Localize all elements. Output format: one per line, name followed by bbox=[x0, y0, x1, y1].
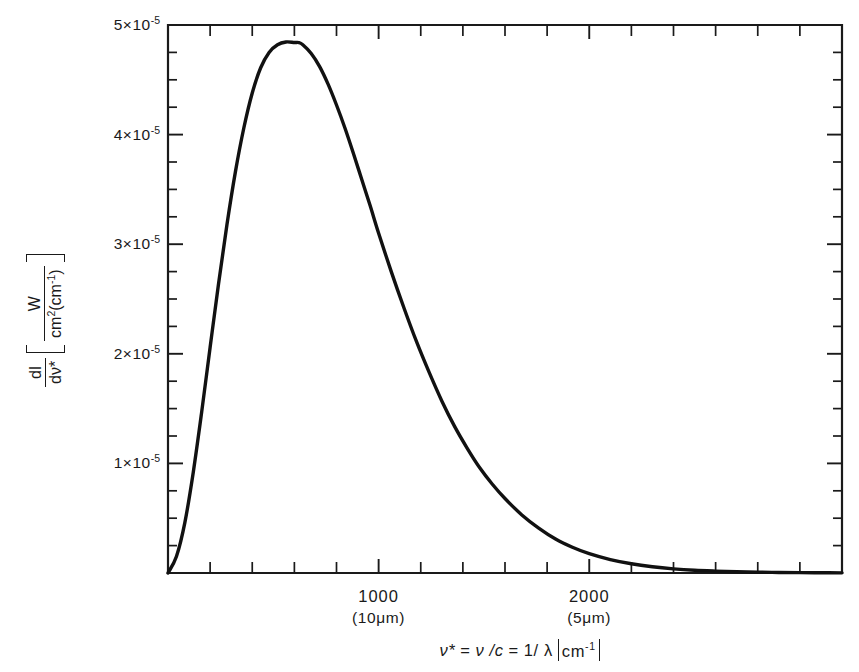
blackbody-spectrum-figure: 5×10-54×10-53×10-52×10-51×10-5 1000(10μm… bbox=[0, 0, 859, 672]
x-axis-top-ticks bbox=[210, 25, 800, 39]
y-axis-left-ticks bbox=[168, 52, 183, 545]
data-series-blackbody bbox=[168, 42, 842, 573]
chart-canvas bbox=[0, 0, 859, 672]
y-axis-right-ticks bbox=[827, 52, 842, 545]
plot-frame bbox=[168, 25, 842, 573]
